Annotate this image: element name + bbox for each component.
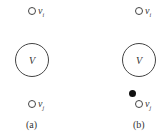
set-v-circle-a: V — [15, 43, 49, 77]
caption-a: (a) — [26, 120, 37, 130]
vertex-vj-a — [28, 100, 36, 108]
set-v-circle-b: V — [122, 43, 156, 77]
set-v-label-a: V — [29, 55, 35, 66]
vertex-vi-label-b: vi — [145, 6, 151, 20]
vertex-vj-b — [135, 100, 143, 108]
set-v-label-b: V — [136, 55, 142, 66]
vertex-vi-a — [28, 7, 36, 15]
vertex-vi-label-a: vi — [38, 6, 44, 20]
vertex-vi-b — [135, 7, 143, 15]
vertex-vj-label-b: vj — [145, 99, 151, 113]
caption-b: (b) — [133, 120, 145, 130]
filled-vertex-b — [129, 90, 136, 97]
vertex-vj-label-a: vj — [38, 99, 44, 113]
